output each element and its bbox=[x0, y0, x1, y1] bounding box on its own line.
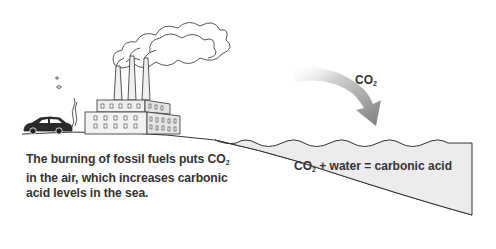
sea bbox=[215, 140, 472, 215]
ocean-acidification-diagram: CO2 CO2 + water = carbonic acid The burn… bbox=[0, 0, 496, 249]
diagram-caption: The burning of fossil fuels puts CO2 in … bbox=[26, 152, 236, 202]
factory-icon bbox=[85, 100, 180, 134]
co2-arrow-label: CO2 bbox=[355, 73, 377, 87]
sea-equation: CO2 + water = carbonic acid bbox=[294, 159, 452, 173]
diagram-artwork bbox=[0, 0, 496, 249]
car-icon bbox=[24, 117, 72, 134]
